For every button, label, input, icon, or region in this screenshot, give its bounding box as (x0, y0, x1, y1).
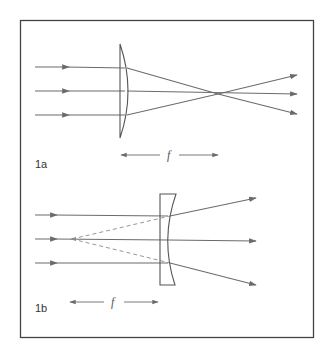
virtual-ray-top (72, 216, 170, 239)
outgoing-ray-bottom (127, 75, 297, 115)
outgoing-ray-middle (168, 240, 256, 241)
incoming-ray-top (35, 215, 168, 216)
incoming-ray-top (35, 67, 125, 68)
incoming-ray-middle (35, 239, 168, 240)
figure-frame (21, 21, 314, 338)
outgoing-rays-1b (168, 198, 256, 285)
panel-label-1b: 1b (35, 302, 47, 314)
outgoing-ray-middle (127, 91, 297, 94)
virtual-ray-bottom (72, 239, 170, 263)
panel-label-1a: 1a (35, 158, 48, 170)
panel-1a: f 1a (35, 44, 297, 170)
focal-length-label-1a: f (167, 148, 172, 162)
outgoing-ray-bottom (170, 263, 256, 285)
incoming-rays-1b (35, 215, 168, 263)
outgoing-rays-1a (127, 68, 297, 115)
focal-length-label-1b: f (111, 295, 116, 309)
outgoing-ray-top (170, 198, 256, 216)
panel-1b: f 1b (35, 194, 256, 314)
lens-optics-diagram: f 1a f 1b (0, 0, 329, 352)
incoming-rays-1a (35, 67, 125, 115)
